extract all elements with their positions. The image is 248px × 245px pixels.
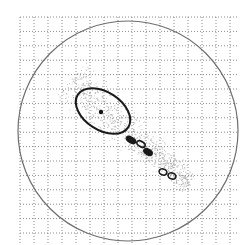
centroid-dot — [99, 110, 103, 114]
diagram-canvas — [0, 0, 248, 245]
speckle-cloud — [58, 63, 195, 192]
boundary-circle — [18, 21, 238, 241]
filled-blob — [125, 135, 136, 145]
scatter-diagram — [0, 0, 248, 245]
ring-blob — [158, 168, 168, 176]
